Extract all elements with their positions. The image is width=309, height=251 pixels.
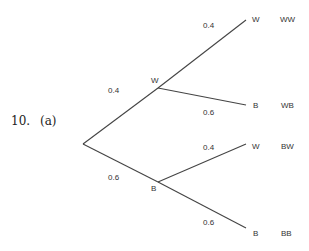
node-label-B: B (151, 185, 156, 193)
prob-root-B: 0.6 (108, 174, 119, 182)
branch-root-to-B (83, 144, 158, 182)
prob-B-W: 0.4 (203, 144, 214, 152)
question-part: (a) (40, 115, 57, 127)
leaf-label-WW: W (252, 16, 260, 24)
outcome-BW: BW (281, 143, 294, 151)
prob-W-W: 0.4 (203, 22, 214, 30)
branch-W-to-W (158, 20, 246, 88)
leaf-label-BB: B (253, 230, 258, 238)
branch-B-to-W (158, 144, 246, 182)
question-number: 10. (11, 115, 30, 127)
branch-W-to-B (158, 88, 246, 105)
outcome-BB: BB (281, 230, 292, 238)
branch-root-to-W (83, 88, 158, 144)
prob-root-W: 0.4 (108, 87, 119, 95)
prob-W-B: 0.6 (203, 109, 214, 117)
leaf-label-WB: B (253, 102, 258, 110)
leaf-label-BW: W (252, 143, 260, 151)
outcome-WW: WW (280, 16, 295, 24)
branch-B-to-B (158, 182, 246, 228)
outcome-WB: WB (281, 102, 294, 110)
node-label-W: W (151, 77, 159, 85)
prob-B-B: 0.6 (203, 219, 214, 227)
